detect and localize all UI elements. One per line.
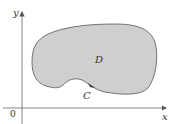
origin-label: 0	[10, 109, 16, 119]
y-axis-label: y	[12, 7, 19, 18]
x-axis-label: x	[162, 111, 168, 122]
region-diagram: y 0 x D C	[0, 0, 169, 124]
region-label: D	[94, 54, 103, 65]
curve-label: C	[83, 90, 91, 101]
